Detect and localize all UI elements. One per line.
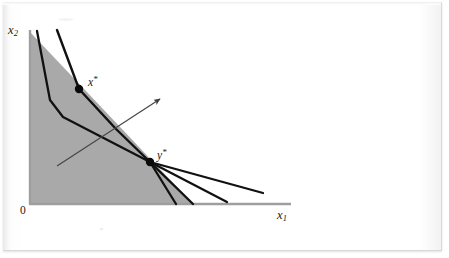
y-axis-label: x2 xyxy=(8,24,18,38)
point-label-x-star: x* xyxy=(88,75,98,88)
origin-label: 0 xyxy=(20,205,26,217)
point-label-y-star: y* xyxy=(157,148,167,161)
feasible-region-shaded xyxy=(30,32,193,204)
point-marker-x-star xyxy=(75,85,83,93)
point-marker-y-star xyxy=(146,158,154,166)
figure-canvas xyxy=(0,0,449,258)
x-axis-label: x1 xyxy=(277,209,287,223)
figure-page: x2 x1 0 x* y* xyxy=(0,0,449,258)
